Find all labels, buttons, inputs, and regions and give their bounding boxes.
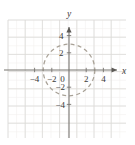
y-tick-label-4: 4 [59,31,64,41]
x-tick-label-2: 2 [84,74,89,84]
coordinate-plane-svg: −4 −2 0 2 4 4 2 −2 −4 x y [0,0,135,145]
plot-background [8,20,126,138]
x-tick-label-4: 4 [101,74,106,84]
graph-figure: −4 −2 0 2 4 4 2 −2 −4 x y [0,0,135,145]
y-tick-label-neg4: −4 [55,100,65,110]
y-tick-label-neg2: −2 [55,82,65,92]
y-tick-label-2: 2 [59,48,64,58]
x-axis-label: x [121,66,127,76]
x-tick-label-neg4: −4 [30,74,40,84]
y-axis-label: y [66,9,72,19]
